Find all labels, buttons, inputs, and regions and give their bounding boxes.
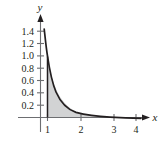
chart-canvas: 1 2 3 4 0.2 0.4 0.6 0.8 1.0 1.2 1.4 y x — [0, 0, 165, 156]
y-tick-label-0-4: 0.4 — [22, 87, 35, 98]
y-tick-label-1-4: 1.4 — [22, 26, 35, 37]
x-axis-tick-labels: 1 2 3 4 — [45, 124, 139, 135]
y-tick-label-0-6: 0.6 — [22, 75, 35, 86]
x-tick-label-3: 3 — [112, 124, 117, 135]
x-tick-label-1: 1 — [45, 124, 50, 135]
shaded-area-under-curve — [48, 62, 115, 118]
y-tick-label-1-2: 1.2 — [22, 38, 35, 49]
y-tick-label-0-8: 0.8 — [22, 63, 35, 74]
x-tick-label-2: 2 — [79, 124, 84, 135]
y-tick-label-1-0: 1.0 — [22, 50, 35, 61]
y-tick-label-0-2: 0.2 — [22, 100, 35, 111]
y-axis-tick-labels: 0.2 0.4 0.6 0.8 1.0 1.2 1.4 — [22, 26, 35, 111]
x-tick-label-4: 4 — [134, 124, 139, 135]
y-axis-label: y — [37, 1, 43, 13]
x-axis-label: x — [152, 111, 158, 123]
figure-container: 1 2 3 4 0.2 0.4 0.6 0.8 1.0 1.2 1.4 y x — [0, 0, 165, 156]
y-axis-arrow-icon — [37, 14, 43, 22]
x-axis-arrow-icon — [142, 114, 150, 120]
